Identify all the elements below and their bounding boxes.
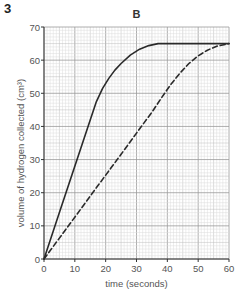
x-tick-label: 0 [41,263,46,274]
y-tick-label: 10 [29,220,40,231]
x-tick-label: 30 [131,263,142,274]
x-axis-label: time (seconds) [105,278,167,289]
y-tick-label: 70 [29,22,40,33]
x-tick-label: 20 [100,263,111,274]
y-tick-label: 0 [35,254,40,265]
x-tick-label: 40 [162,263,173,274]
chart-title: B [133,8,141,20]
y-tick-label: 50 [29,88,40,99]
x-tick-label: 60 [224,263,235,274]
x-tick-label: 50 [193,263,204,274]
y-tick-label: 30 [29,154,40,165]
y-tick-label: 40 [29,121,40,132]
line-chart: 0102030405060010203040506070Btime (secon… [0,0,243,299]
y-tick-label: 20 [29,187,40,198]
y-axis-label: volume of hydrogen collected (cm³) [15,79,26,227]
y-tick-label: 60 [29,55,40,66]
x-tick-label: 10 [70,263,81,274]
